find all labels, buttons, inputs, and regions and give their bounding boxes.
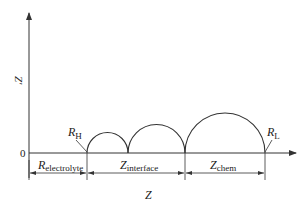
r-electrolyte-label: Relectrolyte [37,158,83,173]
z-chem-label: Zchem [210,158,236,173]
dim-arrow-left-chem [186,171,192,175]
rh-label: RH [67,125,82,141]
y-axis-label: Z' [13,76,25,85]
impedance-diagram: 0 Z Z' RH RL Relectrolyte Zinterface Zch… [0,0,308,213]
arc-chem [185,113,265,153]
rl-label: RL [266,125,280,141]
dim-arrow-left-electrolyte [30,171,36,175]
z-interface-label: Zinterface [120,158,158,173]
arc-interface-2 [128,125,185,154]
rl-leader-line [265,140,272,152]
dim-arrow-left-interface [88,171,94,175]
rh-leader-line [76,140,87,152]
origin-label: 0 [20,147,26,159]
arc-interface-1 [87,132,128,153]
x-axis-label: Z [145,188,152,202]
